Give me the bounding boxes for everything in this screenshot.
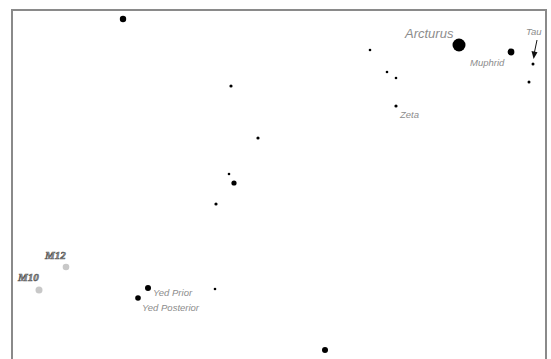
cluster-m12 [63,264,70,271]
label-m12: M12 [44,249,66,261]
label-yed-posterior: Yed Posterior [142,302,200,313]
star [229,84,232,87]
label-yed-prior: Yed Prior [153,287,193,298]
star [395,77,398,80]
star-yed-posterior [135,295,141,301]
star-zeta [394,104,397,107]
star [228,173,231,176]
star-yed-prior [145,285,151,291]
star [120,16,126,22]
tau-arrow [535,40,538,52]
star-tau [532,63,535,66]
label-m10: M10 [17,271,39,283]
star [369,49,372,52]
star [528,81,531,84]
star-muphrid [508,49,515,56]
label-muphrid: Muphrid [470,57,505,68]
star-arcturus [453,39,466,52]
star [214,288,217,291]
cluster-m10 [36,287,43,294]
label-arcturus: Arcturus [404,26,454,41]
star [231,180,236,185]
tau-arrowhead [532,51,538,59]
star [322,347,328,353]
label-zeta: Zeta [399,109,419,120]
label-tau: Tau [526,26,542,37]
star [386,71,389,74]
star [214,202,217,205]
star [256,136,259,139]
